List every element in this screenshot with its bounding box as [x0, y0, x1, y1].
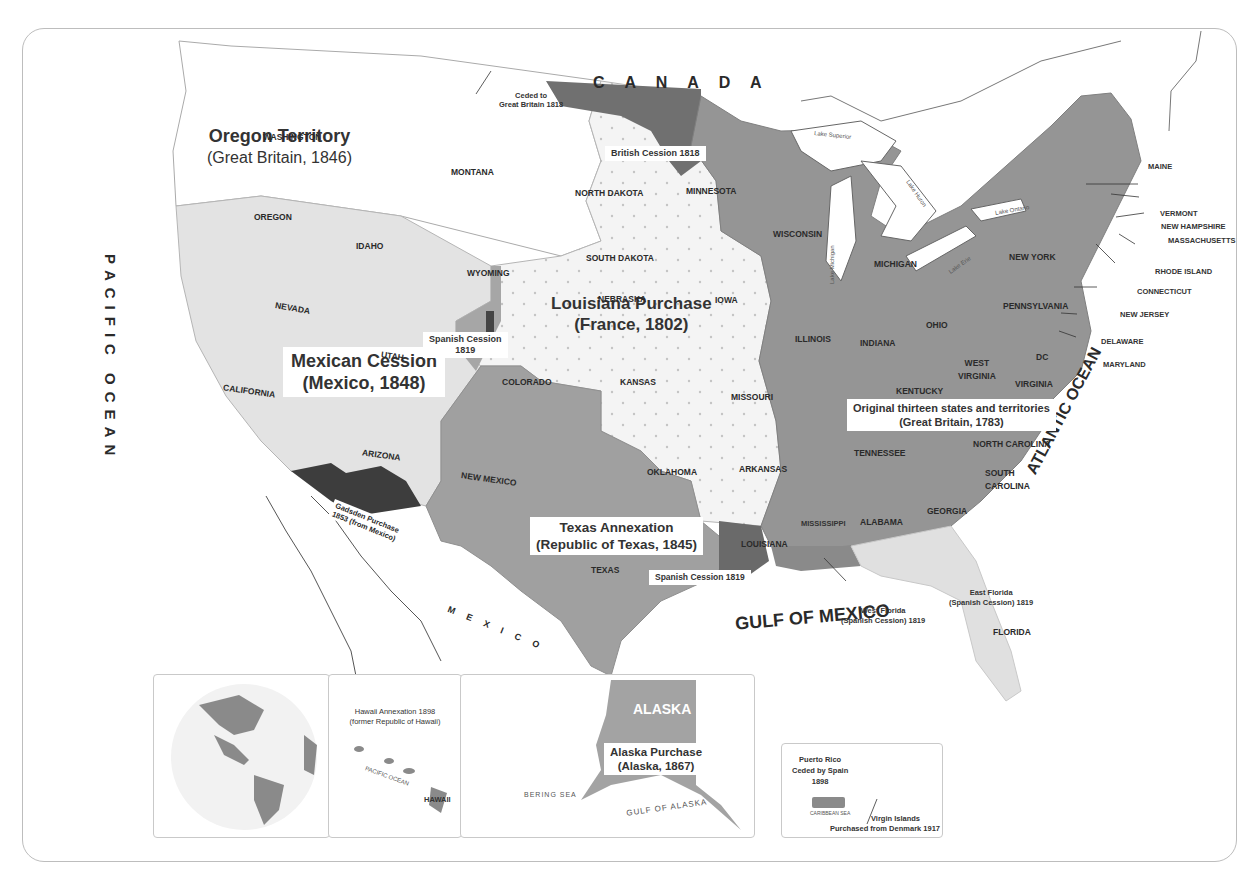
canada-label: C A N A D A [593, 74, 770, 92]
label-line: 1819 [429, 345, 502, 356]
west-florida [771, 546, 861, 571]
spanish-cession-colorado-label: Spanish Cession 1819 [423, 332, 508, 358]
canada-border-east [1169, 31, 1201, 131]
inset-globe [153, 674, 330, 838]
cropped-caption-text [0, 0, 1256, 10]
label-line: WEST [958, 357, 996, 370]
state-nebraska: NEBRASKA [598, 294, 646, 304]
region-title: Original thirteen states and territories [853, 401, 1050, 415]
state-maryland: MARYLAND [1103, 360, 1146, 369]
state-south-dakota: SOUTH DAKOTA [586, 253, 654, 263]
state-tennessee: TENNESSEE [854, 448, 906, 458]
region-subtitle: (France, 1802) [551, 314, 712, 335]
state-virginia: VIRGINIA [1015, 379, 1053, 389]
spanish-cession-louisiana-label: Spanish Cession 1819 [649, 570, 751, 585]
state-north-dakota: NORTH DAKOTA [575, 188, 643, 198]
inset-alaska: ALASKA Alaska Purchase (Alaska, 1867) BE… [460, 674, 755, 838]
region-subtitle: (Great Britain, 1783) [853, 415, 1050, 429]
lake-michigan-label: Lake Michigan [829, 245, 835, 284]
label-line: Ceded to [499, 91, 563, 100]
state-ohio: OHIO [926, 320, 948, 330]
label-line: Purchased from Denmark 1917 [792, 824, 940, 834]
west-florida-label: West Florida (Spanish Cession) 1819 [841, 606, 925, 626]
alaska-title: Alaska Purchase (Alaska, 1867) [604, 743, 708, 775]
state-delaware: DELAWARE [1101, 337, 1144, 346]
state-idaho: IDAHO [356, 241, 383, 251]
state-kansas: KANSAS [620, 377, 656, 387]
state-oregon: OREGON [254, 212, 292, 222]
state-louisiana: LOUISIANA [741, 539, 788, 549]
state-south-carolina: SOUTH CAROLINA [985, 467, 1030, 493]
state-maine: MAINE [1148, 162, 1172, 171]
state-west-virginia: WEST VIRGINIA [958, 357, 996, 383]
east-florida-label: East Florida (Spanish Cession) 1819 [949, 588, 1033, 608]
label-line: Alaska Purchase [610, 745, 702, 759]
state-new-jersey: NEW JERSEY [1120, 310, 1169, 319]
state-massachusetts: MASSACHUSETTS [1168, 236, 1236, 245]
state-illinois: ILLINOIS [795, 334, 831, 344]
state-texas: TEXAS [591, 565, 619, 575]
state-vermont: VERMONT [1160, 209, 1198, 218]
hawaii-label: HAWAII [424, 795, 451, 804]
label-line: Virgin Islands [792, 814, 920, 824]
state-georgia: GEORGIA [927, 506, 967, 516]
region-label-texas: Texas Annexation (Republic of Texas, 184… [530, 517, 703, 555]
region-subtitle: (Great Britain, 1846) [207, 147, 352, 169]
ceded-gb-label: Ceded to Great Britain 1818 [499, 91, 563, 109]
state-rhode-island: RHODE ISLAND [1155, 267, 1212, 276]
label-line: West Florida [841, 606, 925, 616]
state-iowa: IOWA [715, 295, 738, 305]
state-connecticut: CONNECTICUT [1137, 287, 1192, 296]
label-line: SOUTH [985, 467, 1030, 480]
british-cession-label: British Cession 1818 [605, 146, 706, 161]
state-indiana: INDIANA [860, 338, 895, 348]
label-line: (Alaska, 1867) [610, 759, 702, 773]
pacific-ocean-label: PACIFIC OCEAN [99, 254, 119, 462]
region-subtitle: (Mexico, 1848) [291, 372, 437, 394]
hawaii-islands-icon [329, 675, 461, 837]
inset-puerto-rico: Puerto Rico Ceded by Spain 1898 CARIBBEA… [781, 743, 943, 838]
region-title: Texas Annexation [536, 519, 697, 536]
state-colorado: COLORADO [502, 377, 552, 387]
state-wisconsin: WISCONSIN [773, 229, 822, 239]
state-wyoming: WYOMING [467, 268, 510, 278]
alaska-label: ALASKA [633, 701, 691, 717]
region-label-original: Original thirteen states and territories… [847, 399, 1056, 431]
label-line: East Florida [949, 588, 1033, 598]
state-montana: MONTANA [451, 167, 494, 177]
state-kentucky: KENTUCKY [896, 386, 943, 396]
state-minnesota: MINNESOTA [686, 186, 736, 196]
state-arkansas: ARKANSAS [739, 464, 787, 474]
region-subtitle: (Republic of Texas, 1845) [536, 536, 697, 553]
globe-icon [154, 675, 329, 837]
state-michigan: MICHIGAN [874, 259, 917, 269]
spanish-cession-colorado-mark [486, 311, 494, 333]
state-missouri: MISSOURI [731, 392, 773, 402]
state-florida: FLORIDA [993, 627, 1031, 637]
label-line: Great Britain 1818 [499, 100, 563, 109]
region-label-oregon: Oregon Territory (Great Britain, 1846) [201, 123, 358, 171]
state-dc: DC [1036, 352, 1048, 362]
state-oklahoma: OKLAHOMA [647, 467, 697, 477]
label-line: (Spanish Cession) 1819 [841, 616, 925, 626]
state-north-carolina: NORTH CAROLINA [973, 439, 1050, 449]
label-line: (Spanish Cession) 1819 [949, 598, 1033, 608]
inset-hawaii: Hawaii Annexation 1898 (former Republic … [328, 674, 462, 838]
state-new-york: NEW YORK [1009, 252, 1056, 262]
state-new-hampshire: NEW HAMPSHIRE [1161, 222, 1226, 231]
virgin-islands-label: Virgin Islands Purchased from Denmark 19… [792, 814, 940, 834]
map-frame: C A N A D A PACIFIC OCEAN ATLANTIC OCEAN… [22, 28, 1237, 862]
region-title: Mexican Cession [291, 350, 437, 372]
region-label-mexican: Mexican Cession (Mexico, 1848) [283, 347, 445, 397]
label-line: CAROLINA [985, 480, 1030, 493]
state-alabama: ALABAMA [860, 517, 903, 527]
state-mississippi: MISSISSIPPI [801, 519, 846, 528]
label-line: Spanish Cession [429, 334, 502, 345]
state-washington: WASHINGTON [263, 132, 321, 142]
bering-sea-label: BERING SEA [524, 791, 577, 798]
label-line: VIRGINIA [958, 370, 996, 383]
state-pennsylvania: PENNSYLVANIA [1003, 301, 1068, 311]
